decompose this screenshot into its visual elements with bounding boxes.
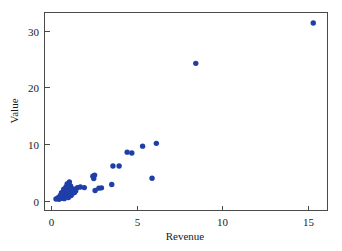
x-tick-label-5: 5 xyxy=(135,216,141,228)
y-tick-label-0: 0 xyxy=(34,196,40,208)
scatter-plot-figure: 051015 0102030 Revenue Value xyxy=(0,0,342,251)
data-point xyxy=(149,176,154,181)
x-tick-label-15: 15 xyxy=(303,216,315,228)
data-point xyxy=(140,143,145,148)
y-tick-label-30: 30 xyxy=(28,26,40,38)
figure-background xyxy=(0,0,342,251)
data-point xyxy=(193,61,198,66)
data-point xyxy=(110,163,115,168)
data-point xyxy=(129,150,134,155)
y-axis-title: Value xyxy=(8,98,20,123)
x-axis-title: Revenue xyxy=(166,230,205,242)
x-tick-label-0: 0 xyxy=(49,216,55,228)
x-tick-label-10: 10 xyxy=(217,216,229,228)
data-point xyxy=(311,20,316,25)
y-tick-label-20: 20 xyxy=(28,82,40,94)
data-point xyxy=(124,149,129,154)
data-point xyxy=(92,172,97,177)
data-point xyxy=(116,163,121,168)
y-tick-label-10: 10 xyxy=(28,139,40,151)
scatter-plot-canvas: 051015 0102030 Revenue Value xyxy=(0,0,342,251)
data-point xyxy=(99,185,104,190)
data-point xyxy=(109,182,114,187)
data-point xyxy=(154,141,159,146)
data-point xyxy=(82,185,87,190)
